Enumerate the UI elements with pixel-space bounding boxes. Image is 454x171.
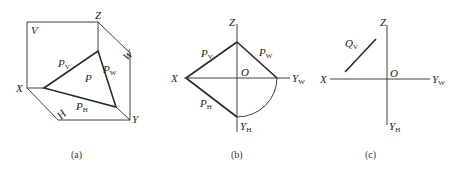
- label-y: Y: [132, 113, 140, 125]
- ph-trace: [186, 78, 237, 117]
- label-pv: PV: [200, 47, 213, 61]
- panel-b: Z X O YW YH PV PW PH (b): [170, 16, 305, 161]
- label-x: X: [319, 73, 328, 85]
- label-o: O: [390, 67, 398, 79]
- panel-a: Z V W X Y H P PV PW PH (a): [15, 9, 140, 161]
- caption-a: (a): [71, 149, 82, 161]
- transfer-arc: [237, 78, 277, 117]
- label-z: Z: [380, 16, 387, 28]
- label-p: P: [84, 72, 92, 84]
- label-yw: YW: [432, 73, 445, 87]
- plane-p-triangle: [44, 51, 116, 107]
- label-yh: YH: [240, 120, 251, 134]
- label-v: V: [31, 24, 39, 36]
- label-z: Z: [229, 16, 236, 28]
- label-o: O: [241, 66, 249, 78]
- caption-c: (c): [365, 149, 376, 161]
- label-yh: YH: [389, 120, 400, 134]
- label-w: W: [120, 47, 135, 63]
- label-x: X: [170, 72, 179, 84]
- label-z: Z: [95, 9, 102, 21]
- y-axis-edge: [116, 107, 130, 120]
- label-ph: PH: [199, 97, 212, 111]
- label-pw: PW: [258, 46, 273, 60]
- label-yw: YW: [292, 72, 305, 86]
- diagram-canvas: Z V W X Y H P PV PW PH (a) Z X O YW: [0, 0, 454, 171]
- caption-b: (b): [231, 149, 243, 161]
- label-pw: PW: [102, 63, 117, 77]
- label-x: X: [15, 82, 24, 94]
- label-pv: PV: [57, 57, 70, 71]
- panel-c: Z X O YW YH QV (c): [319, 16, 445, 161]
- label-ph: PH: [75, 100, 88, 114]
- label-qv: QV: [345, 37, 358, 51]
